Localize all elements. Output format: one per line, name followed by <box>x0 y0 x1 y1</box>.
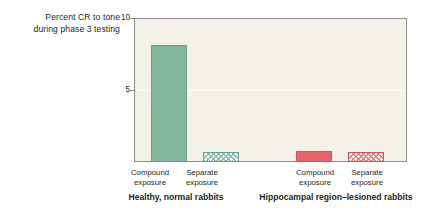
category-label-lesioned-separate: Separate exposure <box>335 168 399 187</box>
bar-chart-figure: Percent CR to tone during phase 3 testin… <box>0 0 435 218</box>
group-label-hippocampal-lesioned-rabbits: Hippocampal region–lesioned rabbits <box>246 192 426 202</box>
y-tick-label-5: 5 <box>112 85 130 94</box>
y-axis-title: Percent CR to tone during phase 3 testin… <box>8 12 120 35</box>
y-axis-title-line-1: Percent CR to tone <box>8 12 120 24</box>
bar-lesioned-separate-exposure <box>348 152 384 162</box>
category-label-healthy-separate: Separate exposure <box>170 168 234 187</box>
y-tick-label-10: 10 <box>112 13 130 22</box>
category-label-line-2: exposure <box>170 178 234 188</box>
bar-lesioned-compound-exposure <box>296 151 332 162</box>
group-label-healthy-normal-rabbits: Healthy, normal rabbits <box>110 192 242 202</box>
y-axis-title-line-2: during phase 3 testing <box>8 24 120 36</box>
bar-healthy-separate-exposure <box>203 152 239 162</box>
category-label-line-2: exposure <box>335 178 399 188</box>
category-label-line-1: Separate <box>170 168 234 178</box>
plot-area <box>134 18 407 162</box>
category-label-line-1: Separate <box>335 168 399 178</box>
bar-healthy-compound-exposure <box>151 45 187 162</box>
